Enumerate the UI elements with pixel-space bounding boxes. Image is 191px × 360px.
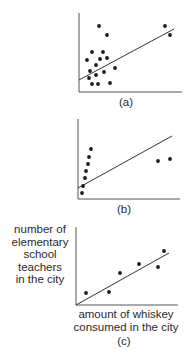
data-point	[94, 73, 98, 77]
data-point	[162, 249, 166, 253]
data-point	[118, 271, 122, 275]
data-point	[108, 81, 112, 85]
data-point	[156, 159, 160, 163]
xlabel-line: consumed in the city	[66, 321, 186, 334]
plot-c-y-axis-label: number of elementary school teachers in …	[6, 223, 74, 286]
data-point	[94, 63, 98, 67]
data-point	[89, 147, 93, 151]
data-point	[107, 290, 111, 294]
data-point	[90, 82, 94, 86]
data-point	[90, 50, 94, 54]
ylabel-line: school	[6, 248, 74, 261]
data-point	[84, 169, 88, 173]
data-point	[137, 262, 141, 266]
data-point	[168, 157, 172, 161]
xlabel-line: amount of whiskey	[66, 308, 186, 321]
data-point	[105, 56, 109, 60]
data-point	[102, 70, 106, 74]
data-point	[84, 291, 88, 295]
ylabel-line: elementary	[6, 236, 74, 249]
data-point	[81, 184, 85, 188]
scatter-plots	[0, 0, 191, 360]
data-point	[87, 155, 91, 159]
data-point	[88, 69, 92, 73]
ylabel-line: teachers	[6, 261, 74, 274]
ylabel-line: number of	[6, 223, 74, 236]
data-point	[85, 58, 89, 62]
caption-a: (a)	[106, 96, 146, 108]
data-point	[97, 24, 101, 28]
data-point	[113, 66, 117, 70]
data-point	[168, 33, 172, 37]
data-point	[87, 76, 91, 80]
data-point	[163, 24, 167, 28]
caption-b: (b)	[104, 203, 144, 215]
data-point	[101, 50, 105, 54]
caption-c: (c)	[104, 335, 144, 347]
data-point	[80, 191, 84, 195]
data-point	[105, 33, 109, 37]
data-point	[83, 176, 87, 180]
trend-line	[76, 253, 169, 305]
ylabel-line: in the city	[6, 273, 74, 286]
data-point	[96, 82, 100, 86]
data-point	[98, 57, 102, 61]
data-point	[86, 162, 90, 166]
data-point	[156, 265, 160, 269]
plot-c-x-axis-label: amount of whiskey consumed in the city	[66, 308, 186, 333]
trend-line	[79, 29, 174, 80]
